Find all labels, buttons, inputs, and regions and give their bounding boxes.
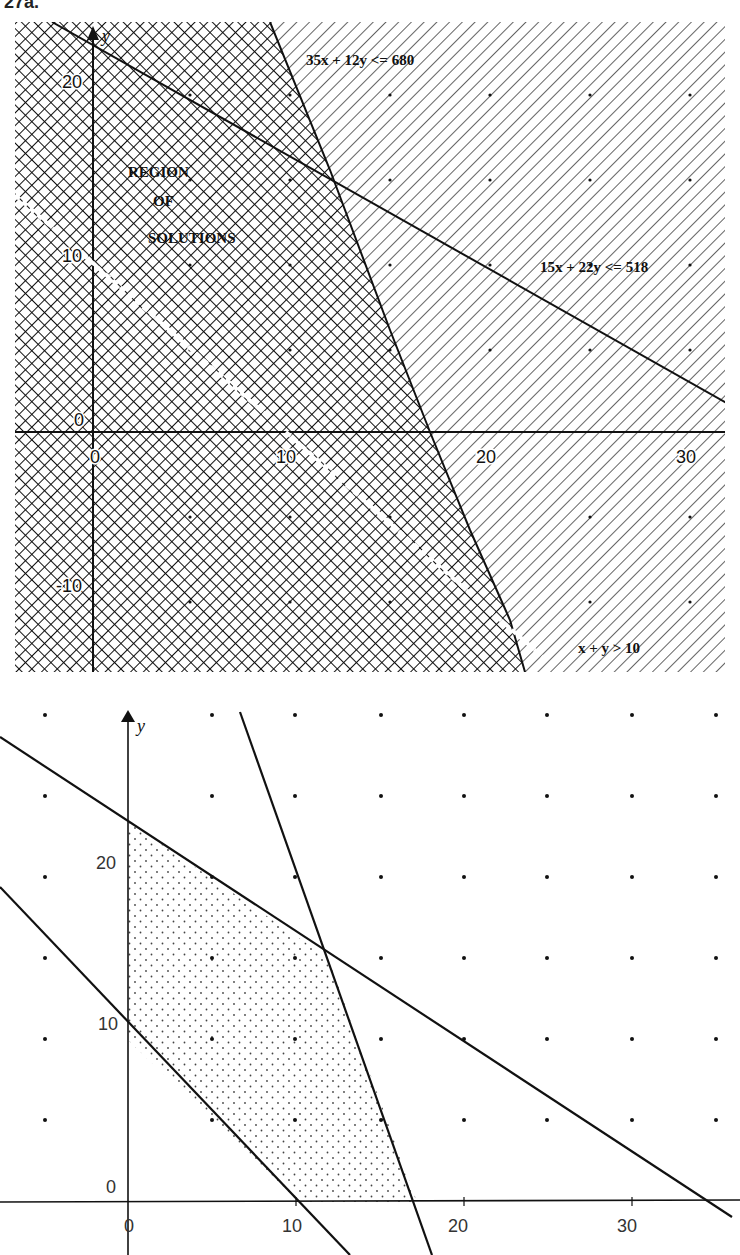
x-tick-label: 10 (282, 1216, 302, 1236)
y-axis-label: y (135, 716, 145, 736)
y-tick-label: 0 (106, 1177, 116, 1197)
y-tick-label: -10 (56, 576, 82, 596)
y-tick-label: 20 (62, 72, 82, 92)
x-tick-label: 30 (676, 447, 696, 467)
x-axis (0, 1200, 740, 1202)
y-tick-label: 20 (96, 853, 116, 873)
constraint-label-x-plus-y: x + y > 10 (578, 640, 640, 656)
y-tick-label: 10 (98, 1014, 118, 1034)
x-tick-label: 0 (124, 1216, 134, 1236)
top-hatched-chart: 0 10 20 30 20 10 0 -10 y 35x + 12y <= 68… (0, 0, 740, 680)
bottom-feasible-region-chart: y 0 10 20 30 20 10 0 (0, 680, 740, 1255)
y-tick-label: 0 (74, 410, 84, 430)
x-tick-label: 30 (617, 1216, 637, 1236)
y-axis-label: y (100, 26, 110, 46)
x-tick-label: 20 (448, 1216, 468, 1236)
y-tick-label: 10 (62, 246, 82, 266)
region-label-line1: REGION (128, 164, 189, 180)
y-axis-arrow-icon (121, 710, 135, 722)
x-tick-label: 20 (476, 447, 496, 467)
constraint-label-35x-12y: 35x + 12y <= 680 (306, 52, 414, 68)
x-tick-label: 10 (276, 447, 296, 467)
region-label-line3: SOLUTIONS (148, 230, 236, 246)
feasible-region-dots (128, 821, 417, 1202)
constraint-label-15x-22y: 15x + 22y <= 518 (540, 259, 648, 275)
region-label-line2: OF (153, 193, 174, 209)
x-tick-label: 0 (90, 447, 100, 467)
